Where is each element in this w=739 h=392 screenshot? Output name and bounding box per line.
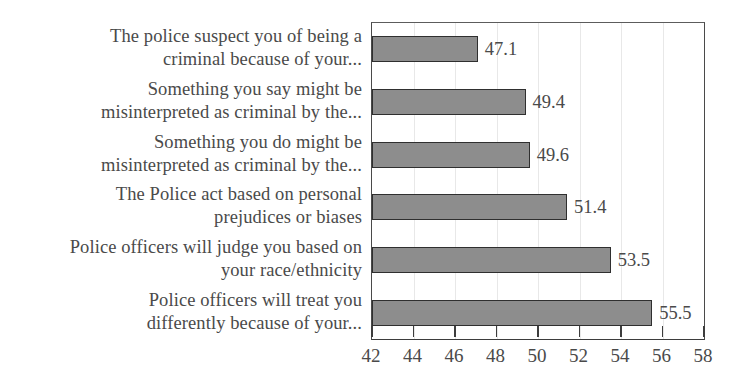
axis-tick-label: 48 (486, 344, 505, 368)
bar-value-label: 49.4 (526, 92, 565, 112)
category-label: Police officers will treat youdifferentl… (2, 289, 362, 335)
horizontal-bar-chart: The police suspect you of being acrimina… (0, 0, 739, 392)
axis-tick-label: 46 (445, 344, 464, 368)
category-label-line: your race/ethnicity (2, 259, 362, 282)
axis-tick-label: 42 (362, 344, 381, 368)
category-label: Police officers will judge you based ony… (2, 236, 362, 282)
axis-tick-label: 52 (569, 344, 588, 368)
category-label-line: The police suspect you of being a (2, 25, 362, 48)
category-label: The police suspect you of being acrimina… (2, 25, 362, 71)
bar-band: 49.4 (372, 76, 704, 129)
category-label: Something you say might bemisinterpreted… (2, 78, 362, 124)
axis-tick-label: 50 (528, 344, 547, 368)
bar[interactable] (372, 89, 526, 115)
category-axis: The police suspect you of being acrimina… (0, 22, 366, 338)
axis-tick-label: 54 (611, 344, 630, 368)
category-label: The Police act based on personalprejudic… (2, 183, 362, 229)
category-label-line: Something you say might be (2, 78, 362, 101)
bar[interactable] (372, 194, 567, 220)
category-label-line: differently because of your... (2, 312, 362, 335)
bar-value-label: 49.6 (530, 145, 569, 165)
bar-value-label: 51.4 (567, 197, 606, 217)
category-label-line: The Police act based on personal (2, 183, 362, 206)
bar-band: 55.5 (372, 286, 704, 339)
bar[interactable] (372, 247, 611, 273)
bar-band: 49.6 (372, 128, 704, 181)
bar-value-label: 47.1 (478, 39, 517, 59)
bar[interactable] (372, 300, 652, 326)
bar-band: 53.5 (372, 234, 704, 287)
category-label-line: Something you do might be (2, 131, 362, 154)
axis-tick-label: 58 (694, 344, 713, 368)
plot-area: 47.149.449.651.453.555.5 (371, 22, 705, 340)
category-label-line: Police officers will treat you (2, 289, 362, 312)
value-axis-tick-labels: 424446485052545658 (371, 344, 705, 374)
category-label-line: misinterpreted as criminal by the... (2, 154, 362, 177)
category-label-line: criminal because of your... (2, 48, 362, 71)
bar-value-label: 55.5 (652, 303, 691, 323)
bar[interactable] (372, 142, 530, 168)
bar-band: 47.1 (372, 23, 704, 76)
category-label-line: misinterpreted as criminal by the... (2, 101, 362, 124)
axis-tick-label: 44 (403, 344, 422, 368)
category-label: Something you do might bemisinterpreted … (2, 131, 362, 177)
bar[interactable] (372, 36, 478, 62)
bars-layer: 47.149.449.651.453.555.5 (372, 23, 704, 339)
category-label-line: prejudices or biases (2, 206, 362, 229)
bar-band: 51.4 (372, 181, 704, 234)
category-label-line: Police officers will judge you based on (2, 236, 362, 259)
axis-tick-label: 56 (652, 344, 671, 368)
bar-value-label: 53.5 (611, 250, 650, 270)
